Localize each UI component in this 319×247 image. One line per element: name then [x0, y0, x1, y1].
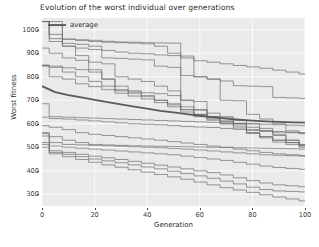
series-line-run-9 — [42, 66, 305, 147]
series-line-run-18 — [42, 147, 305, 201]
series-line-run-5 — [42, 48, 305, 144]
x-axis-label: Generation — [42, 221, 305, 229]
y-tick-label: 500 — [3, 143, 39, 151]
series-line-run-12 — [42, 126, 305, 156]
y-tick-mark — [37, 194, 39, 195]
y-axis-ticks: 3004005006007008009001000 — [0, 18, 39, 206]
y-tick-label: 300 — [3, 190, 39, 198]
series-line-run-17 — [42, 144, 305, 191]
y-tick-mark — [37, 171, 39, 172]
x-tick-label: 60 — [185, 211, 215, 219]
series-line-run-13 — [42, 133, 305, 149]
x-tick-mark — [200, 208, 201, 210]
legend-line-icon — [47, 22, 67, 28]
series-line-run-8 — [42, 65, 305, 146]
series-line-run-4 — [42, 22, 305, 134]
y-tick-label: 700 — [3, 96, 39, 104]
chart-title: Evolution of the worst individual over g… — [40, 3, 300, 12]
y-tick-mark — [37, 147, 39, 148]
y-tick-mark — [37, 53, 39, 54]
x-tick-mark — [147, 208, 148, 210]
y-tick-mark — [37, 100, 39, 101]
y-tick-label: 600 — [3, 120, 39, 128]
y-tick-label: 800 — [3, 73, 39, 81]
y-axis-label: Worst fitness — [10, 47, 18, 147]
x-axis-ticks: 020406080100 — [42, 208, 305, 220]
x-tick-label: 80 — [237, 211, 267, 219]
chart-figure: Evolution of the worst individual over g… — [0, 0, 319, 247]
x-tick-label: 100 — [290, 211, 319, 219]
series-line-average — [42, 86, 305, 122]
plot-area — [42, 18, 305, 206]
y-tick-label: 1000 — [3, 26, 39, 34]
x-tick-label: 40 — [132, 211, 162, 219]
y-tick-mark — [37, 124, 39, 125]
series-line-run-3 — [42, 22, 305, 134]
y-tick-mark — [37, 77, 39, 78]
plot-svg — [42, 18, 305, 206]
x-tick-mark — [95, 208, 96, 210]
legend-label-average: average — [70, 21, 98, 29]
chart-legend: average — [46, 20, 101, 30]
series-line-run-11 — [42, 117, 305, 133]
x-tick-label: 0 — [27, 211, 57, 219]
series-line-run-16 — [42, 143, 305, 187]
y-tick-label: 400 — [3, 167, 39, 175]
x-tick-label: 20 — [80, 211, 110, 219]
series-lines — [42, 22, 305, 201]
y-tick-label: 900 — [3, 49, 39, 57]
x-tick-mark — [252, 208, 253, 210]
x-tick-mark — [42, 208, 43, 210]
y-tick-mark — [37, 30, 39, 31]
x-tick-mark — [305, 208, 306, 210]
